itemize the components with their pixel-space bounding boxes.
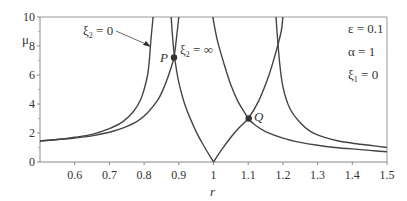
x-tick-label: 0.6 — [67, 168, 82, 182]
x-tick-label: 1.4 — [345, 168, 360, 182]
y-tick-label: 4 — [29, 97, 35, 111]
curve-line — [171, 17, 213, 162]
x-tick-label: 0.7 — [102, 168, 117, 182]
arrow-line — [116, 31, 148, 45]
y-tick-label: 2 — [29, 126, 35, 140]
x-tick-label: 0.8 — [137, 168, 152, 182]
xi2-zero-label: ξ2 = 0 — [83, 23, 113, 40]
point-p-label: P — [159, 50, 168, 65]
x-tick-label: 1 — [211, 168, 217, 182]
x-tick-label: 1.3 — [310, 168, 325, 182]
x-tick-label: 1.1 — [241, 168, 256, 182]
x-tick-label: 1.5 — [380, 168, 395, 182]
xi2-inf-label: ξ2 = ∞ — [180, 42, 213, 59]
x-tick-label: 1.2 — [275, 168, 290, 182]
x-axis-label: r — [210, 184, 216, 199]
arrow-head-icon — [143, 41, 151, 47]
param-alpha: α = 1 — [348, 44, 375, 59]
param-xi1: ξ1 = 0 — [348, 67, 378, 84]
x-ticks: 0.60.70.80.911.11.21.31.41.5 — [67, 162, 394, 182]
y-tick-label: 10 — [23, 10, 35, 24]
param-epsilon: ε = 0.1 — [348, 21, 384, 36]
y-axis-label: μ — [22, 32, 29, 47]
point-q-marker — [246, 115, 252, 121]
x-tick-label: 0.9 — [171, 168, 186, 182]
curve-line — [276, 17, 387, 148]
curve-line — [214, 17, 283, 162]
y-tick-label: 8 — [29, 39, 35, 53]
curve-line — [213, 17, 387, 152]
xi2-zero-annotation: ξ2 = 0 — [83, 23, 151, 47]
point-q-label: Q — [254, 109, 264, 124]
chart: 0246810 0.60.70.80.911.11.21.31.41.5 μ r… — [0, 0, 407, 201]
y-tick-label: 0 — [29, 155, 35, 169]
y-tick-label: 6 — [29, 68, 35, 82]
point-p-marker — [171, 54, 177, 60]
